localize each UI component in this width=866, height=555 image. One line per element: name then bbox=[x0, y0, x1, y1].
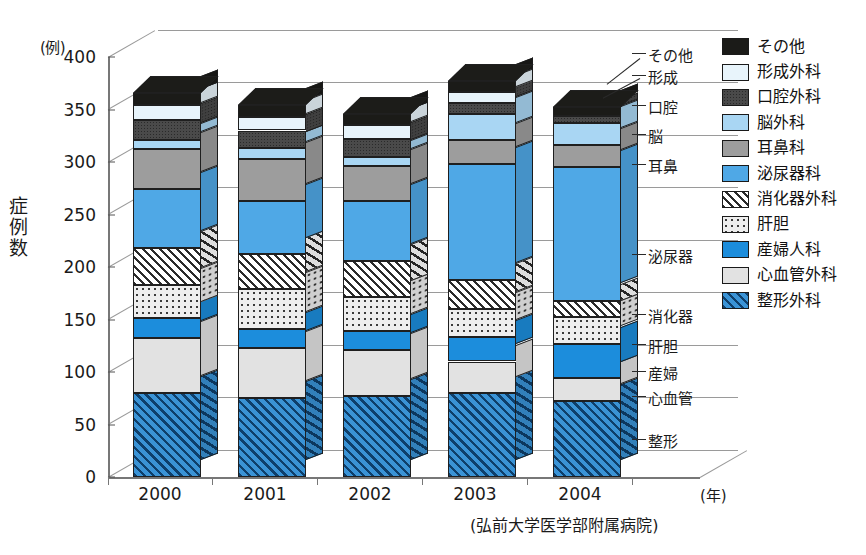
bar-segment-整形外科[interactable] bbox=[238, 398, 306, 477]
bar-segment-産婦人科[interactable] bbox=[238, 329, 306, 348]
bar-segment-口腔外科[interactable] bbox=[133, 120, 201, 140]
bar-segment-その他[interactable] bbox=[448, 81, 516, 92]
bar-segment-耳鼻科[interactable] bbox=[238, 159, 306, 201]
bar-2004[interactable] bbox=[553, 0, 621, 555]
bar-segment-side bbox=[621, 320, 638, 361]
bar-segment-形成外科[interactable] bbox=[448, 92, 516, 104]
bar-segment-side bbox=[306, 266, 323, 312]
bar-segment-その他[interactable] bbox=[238, 105, 306, 117]
legend-label: 脳外科 bbox=[757, 115, 805, 131]
bar-segment-その他[interactable] bbox=[343, 114, 411, 126]
legend-swatch bbox=[722, 64, 749, 81]
bar-segment-形成外科[interactable] bbox=[343, 125, 411, 139]
bar-2000[interactable] bbox=[133, 0, 201, 555]
bar-segment-形成外科[interactable] bbox=[238, 117, 306, 131]
y-axis-title: 症例数 bbox=[4, 196, 31, 259]
bar-segment-肝胆[interactable] bbox=[343, 297, 411, 331]
callout-label: 整形 bbox=[648, 430, 678, 451]
bar-segment-side bbox=[201, 369, 218, 460]
bar-segment-消化器外科[interactable] bbox=[343, 261, 411, 298]
bar-segment-泌尿器科[interactable] bbox=[343, 201, 411, 261]
bar-segment-口腔外科[interactable] bbox=[448, 103, 516, 114]
bar-segment-脳外科[interactable] bbox=[133, 140, 201, 149]
legend-item[interactable]: 口腔外科 bbox=[722, 85, 837, 110]
bar-segment-その他[interactable] bbox=[133, 93, 201, 106]
callout-label: 口腔 bbox=[648, 96, 678, 117]
bar-segment-side bbox=[306, 177, 323, 237]
bar-2001[interactable] bbox=[238, 0, 306, 555]
bar-segment-産婦人科[interactable] bbox=[553, 344, 621, 379]
bar-segment-その他[interactable] bbox=[553, 107, 621, 115]
callout-leader-line bbox=[632, 439, 646, 440]
bar-segment-整形外科[interactable] bbox=[343, 396, 411, 477]
bar-segment-肝胆[interactable] bbox=[448, 309, 516, 337]
bar-segment-口腔外科[interactable] bbox=[553, 116, 621, 123]
bar-segment-消化器外科[interactable] bbox=[133, 248, 201, 285]
bar-segment-口腔外科[interactable] bbox=[238, 131, 306, 149]
legend-item[interactable]: 形成外科 bbox=[722, 59, 837, 84]
bar-segment-消化器外科[interactable] bbox=[553, 301, 621, 318]
bar-segment-脳外科[interactable] bbox=[238, 148, 306, 159]
bar-segment-耳鼻科[interactable] bbox=[448, 140, 516, 164]
y-tick-label: 0 bbox=[52, 467, 96, 487]
bar-segment-耳鼻科[interactable] bbox=[343, 166, 411, 201]
source-note: (弘前大学医学部附属病院) bbox=[470, 512, 658, 536]
y-tick-label: 350 bbox=[52, 100, 96, 120]
bar-segment-心血管外科[interactable] bbox=[238, 348, 306, 398]
bar-segment-side bbox=[411, 326, 428, 379]
bar-segment-産婦人科[interactable] bbox=[133, 318, 201, 338]
x-tick-label-2003: 2003 bbox=[415, 484, 535, 504]
callout-label: 泌尿器 bbox=[648, 245, 693, 266]
bar-segment-泌尿器科[interactable] bbox=[448, 164, 516, 280]
legend-label: 整形外科 bbox=[757, 293, 821, 309]
legend-item[interactable]: 泌尿器科 bbox=[722, 161, 837, 186]
bar-segment-消化器外科[interactable] bbox=[238, 254, 306, 289]
bar-segment-整形外科[interactable] bbox=[448, 393, 516, 477]
bar-segment-形成外科[interactable] bbox=[133, 105, 201, 120]
bar-segment-産婦人科[interactable] bbox=[343, 331, 411, 350]
legend-item[interactable]: 心血管外科 bbox=[722, 263, 837, 288]
callout-label: 心血管 bbox=[648, 387, 693, 408]
bar-segment-整形外科[interactable] bbox=[133, 393, 201, 477]
legend-item[interactable]: その他 bbox=[722, 34, 837, 59]
callout-label: 耳鼻 bbox=[648, 155, 678, 176]
bar-segment-心血管外科[interactable] bbox=[553, 378, 621, 401]
y-tick bbox=[108, 267, 115, 268]
x-tick-label-2002: 2002 bbox=[310, 484, 430, 504]
bar-2003[interactable] bbox=[448, 0, 516, 555]
bar-segment-心血管外科[interactable] bbox=[133, 338, 201, 393]
legend-item[interactable]: 肝胆 bbox=[722, 212, 837, 237]
legend-item[interactable]: 耳鼻科 bbox=[722, 136, 837, 161]
bar-segment-心血管外科[interactable] bbox=[343, 350, 411, 396]
callout-leader-line bbox=[632, 344, 646, 345]
bar-segment-泌尿器科[interactable] bbox=[553, 167, 621, 300]
y-tick-label: 200 bbox=[52, 257, 96, 277]
x-tick-label-2000: 2000 bbox=[100, 484, 220, 504]
bar-2002[interactable] bbox=[343, 0, 411, 555]
bar-segment-肝胆[interactable] bbox=[133, 285, 201, 319]
bar-segment-肝胆[interactable] bbox=[553, 317, 621, 343]
legend-swatch bbox=[722, 216, 749, 233]
bar-segment-side bbox=[411, 373, 428, 460]
callout-leader-line bbox=[632, 254, 646, 255]
y-tick-label: 50 bbox=[52, 415, 96, 435]
bar-segment-口腔外科[interactable] bbox=[343, 139, 411, 157]
floor-right-edge bbox=[700, 450, 748, 478]
bar-segment-脳外科[interactable] bbox=[553, 123, 621, 145]
callout-leader-line bbox=[632, 53, 646, 54]
legend-item[interactable]: 消化器外科 bbox=[722, 186, 837, 211]
bar-segment-泌尿器科[interactable] bbox=[238, 201, 306, 255]
bar-segment-脳外科[interactable] bbox=[448, 114, 516, 140]
legend-item[interactable]: 整形外科 bbox=[722, 288, 837, 313]
bar-segment-耳鼻科[interactable] bbox=[133, 149, 201, 189]
bar-segment-整形外科[interactable] bbox=[553, 401, 621, 477]
bar-segment-産婦人科[interactable] bbox=[448, 337, 516, 361]
bar-segment-心血管外科[interactable] bbox=[448, 362, 516, 394]
bar-segment-泌尿器科[interactable] bbox=[133, 189, 201, 248]
bar-segment-消化器外科[interactable] bbox=[448, 280, 516, 309]
bar-segment-肝胆[interactable] bbox=[238, 289, 306, 329]
bar-segment-耳鼻科[interactable] bbox=[553, 145, 621, 167]
legend-item[interactable]: 産婦人科 bbox=[722, 237, 837, 262]
legend-item[interactable]: 脳外科 bbox=[722, 110, 837, 135]
bar-segment-脳外科[interactable] bbox=[343, 157, 411, 166]
